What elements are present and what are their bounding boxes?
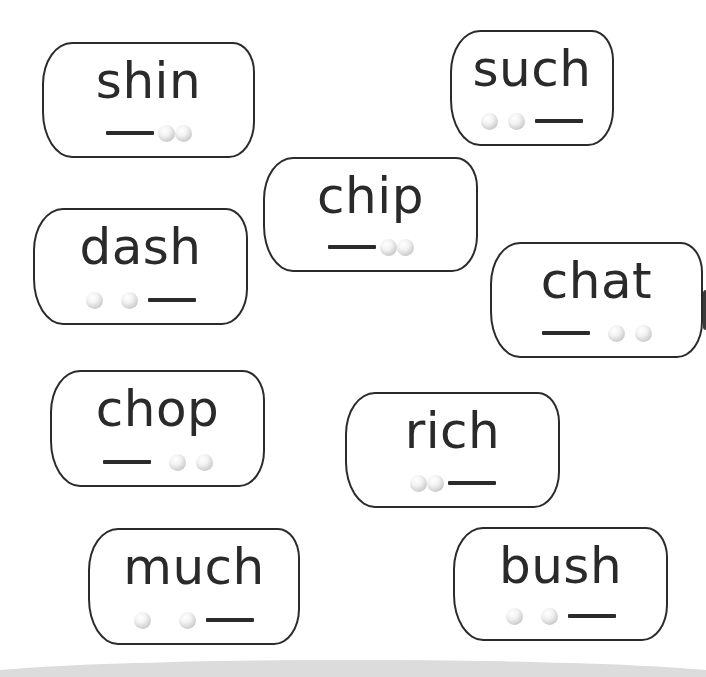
word-card-dash: dash <box>33 208 248 325</box>
sound-buttons <box>44 124 253 142</box>
word-label: chip <box>265 165 476 227</box>
sound-dot-icon <box>158 125 175 142</box>
word-label: chat <box>492 250 701 312</box>
digraph-line-icon <box>542 331 590 335</box>
digraph-line-icon <box>448 481 496 485</box>
sound-dot-icon <box>179 612 196 629</box>
sound-dot-icon <box>410 475 427 492</box>
word-card-chip: chip <box>263 157 478 272</box>
sound-dot-icon <box>175 125 192 142</box>
word-label: chop <box>52 378 263 440</box>
word-label: such <box>452 38 612 100</box>
digraph-line-icon <box>106 131 154 135</box>
sound-buttons <box>90 611 298 629</box>
sound-buttons <box>452 112 612 130</box>
digraph-line-icon <box>103 460 151 464</box>
word-label: dash <box>35 216 246 278</box>
word-card-shin: shin <box>42 42 255 158</box>
sound-dot-icon <box>506 608 523 625</box>
sound-buttons <box>265 238 476 256</box>
digraph-line-icon <box>206 618 254 622</box>
sound-buttons <box>347 474 558 492</box>
word-label: bush <box>455 535 666 597</box>
sound-dot-icon <box>380 239 397 256</box>
footer-band <box>0 660 706 677</box>
digraph-line-icon <box>568 614 616 618</box>
sound-buttons <box>35 291 246 309</box>
sound-dot-icon <box>86 292 103 309</box>
sound-dot-icon <box>481 113 498 130</box>
digraph-line-icon <box>148 298 196 302</box>
sound-buttons <box>455 607 666 625</box>
digraph-line-icon <box>328 245 376 249</box>
word-card-much: much <box>88 528 300 645</box>
word-card-chat: chat <box>490 242 703 358</box>
sound-dot-icon <box>397 239 414 256</box>
sound-dot-icon <box>608 325 625 342</box>
sound-dot-icon <box>541 608 558 625</box>
word-label: much <box>90 536 298 598</box>
sound-dot-icon <box>508 113 525 130</box>
word-label: shin <box>44 50 253 112</box>
sound-dot-icon <box>169 454 186 471</box>
word-card-rich: rich <box>345 392 560 508</box>
word-card-chop: chop <box>50 370 265 487</box>
word-card-bush: bush <box>453 527 668 641</box>
sound-dot-icon <box>635 325 652 342</box>
sound-buttons <box>52 453 263 471</box>
word-label: rich <box>347 400 558 462</box>
sound-dot-icon <box>427 475 444 492</box>
sound-dot-icon <box>196 454 213 471</box>
word-card-such: such <box>450 30 614 146</box>
sound-dot-icon <box>134 612 151 629</box>
digraph-line-icon <box>535 119 583 123</box>
sound-dot-icon <box>121 292 138 309</box>
sound-buttons <box>492 324 701 342</box>
